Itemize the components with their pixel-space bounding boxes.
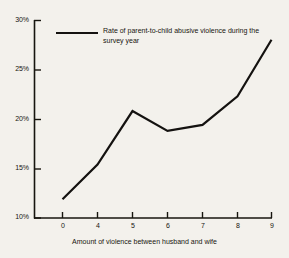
y-tick-label-15: 15% [5,164,29,171]
legend-line-sample-icon [56,32,98,35]
x-axis-ticks [63,212,272,218]
x-tick-label-6: 6 [161,222,175,229]
x-tick-label-5: 5 [126,222,140,229]
y-tick-label-30: 30% [5,16,29,23]
x-tick-label-0: 0 [56,222,70,229]
x-tick-label-7: 7 [196,222,210,229]
y-tick-label-20: 20% [5,115,29,122]
legend-label-line-1: Rate of parent-to-child abusive violence [103,27,226,34]
y-tick-label-25: 25% [5,65,29,72]
series-line-abusive-violence-rate [63,40,272,199]
x-tick-label-4: 4 [91,222,105,229]
line-chart-figure: 30% 25% 20% 15% 10% 0 4 5 6 7 8 9 Rate o… [0,0,289,258]
legend-label: Rate of parent-to-child abusive violence… [103,26,263,45]
x-tick-label-8: 8 [231,222,245,229]
x-axis-title: Amount of violence between husband and w… [0,238,289,245]
x-tick-label-9: 9 [265,222,279,229]
y-tick-label-10: 10% [5,213,29,220]
